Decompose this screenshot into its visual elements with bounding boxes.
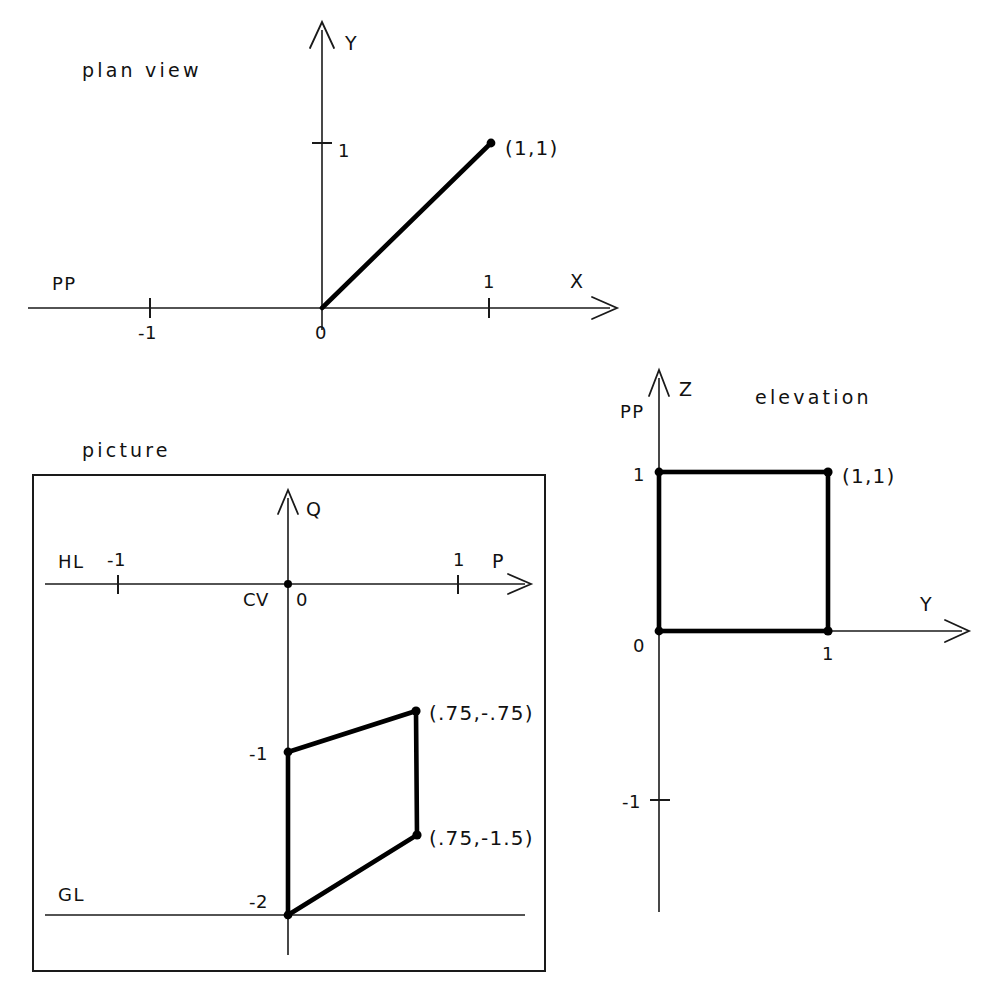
plan-picture-plane-label: PP [52,273,77,294]
elevation-z-tick-label-1: 1 [633,464,645,485]
plan-segment-endpoint-label: (1,1) [505,136,558,160]
picture-view-panel: picture Q P HL -1 1 CV 0 GL [33,439,545,971]
picture-vertex-upper-right [411,706,420,715]
picture-vertex-q-neg2 [284,911,293,920]
plan-object-segment [322,143,491,308]
picture-vertex-lower-right [412,830,421,839]
elevation-corner-label: (1,1) [842,464,895,488]
plan-y-axis-label: Y [344,32,358,54]
picture-view-title: picture [82,439,171,461]
elevation-z-tick-label-neg1: -1 [622,791,641,812]
elevation-view-panel: elevation Z PP Y 1 -1 0 1 [620,370,969,912]
plan-segment-endpoint-vertex [487,139,496,148]
plan-view-panel: plan view Y 1 X PP -1 1 0 (1,1) [28,22,617,343]
elevation-z-axis-label: Z [679,378,693,400]
picture-q-tick-label-neg1: -1 [249,743,268,764]
elevation-y-tick-label-1: 1 [822,643,834,664]
picture-q-axis-label: Q [306,498,322,520]
plan-y-tick-label-1: 1 [338,140,350,161]
picture-center-of-vision-point [284,580,292,588]
picture-ground-line-label: GL [58,884,85,905]
elevation-vertex-top-right [823,467,832,476]
picture-p-axis-label: P [492,550,504,572]
elevation-vertex-bottom-right [823,626,832,635]
picture-vertex-label-upper: (.75,-.75) [429,701,534,725]
plan-origin-label: 0 [315,322,327,343]
elevation-vertex-bottom-left [655,627,664,636]
picture-q-tick-label-neg2: -2 [249,891,268,912]
picture-origin-label: 0 [296,589,308,610]
picture-p-tick-label-neg1: -1 [107,549,126,570]
elevation-y-axis-label: Y [919,593,933,615]
plan-view-title: plan view [82,59,202,81]
picture-horizon-line-label: HL [58,551,85,572]
plan-x-tick-label-neg1: -1 [138,322,157,343]
plan-x-tick-label-1: 1 [483,271,495,292]
elevation-view-title: elevation [755,386,872,408]
elevation-picture-plane-label: PP [620,401,645,422]
plan-x-axis-label: X [570,270,584,292]
elevation-vertex-top-left [655,468,664,477]
technical-diagram: plan view Y 1 X PP -1 1 0 (1,1) [0,0,999,992]
elevation-object-square [659,472,828,631]
picture-p-tick-label-1: 1 [453,549,465,570]
picture-vertex-label-lower: (.75,-1.5) [429,826,534,850]
elevation-origin-label: 0 [633,635,645,656]
picture-center-of-vision-label: CV [243,589,269,610]
picture-vertex-q-neg1 [284,748,293,757]
picture-projected-quadrilateral [288,711,417,915]
figure-canvas: plan view Y 1 X PP -1 1 0 (1,1) [0,0,999,992]
